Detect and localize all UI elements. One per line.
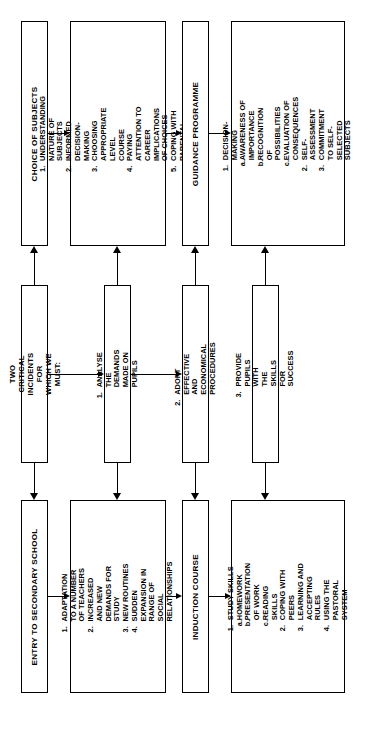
connector-mid-1-to-2 [48,374,98,375]
list-item: 3.COMMITMENT TO SELF-SELECTED SUBJECTS [319,96,354,170]
box-guidance-programme-details: 1.DECISION-MAKINGa.AWARENESS OF IMPORTAN… [231,21,345,246]
list-item-text: RECOGNITION OF POSSIBILITIES [257,96,283,159]
arrow-top-3-to-4-head [225,130,231,136]
list-item: b.RECOGNITION OF POSSIBILITIES [257,96,283,170]
box-guidance-programme-label: GUIDANCE PROGRAMME [191,81,201,185]
flowchart-canvas: CHOICE OF SUBJECTS 1.UNDERSTANDING NATUR… [0,0,377,737]
arrow-col2-down-head [113,493,121,500]
list-item: a.AWARENESS OF IMPORTANCE [240,96,257,170]
arrow-top-1-to-2-head [64,130,70,136]
list-item: b.PRESENTATION OF WORK [244,562,261,630]
box-two-critical-incidents: TWO CRITICAL INCIDENTS FOR WHICH WE MUST… [21,285,48,463]
arrow-col4-up-head [261,246,269,253]
box-adopt-effective-procedures: 2.ADOPT EFFECTIVE AND ECONOMICAL PROCEDU… [182,285,209,463]
list-item-text: ADOPT EFFECTIVE AND ECONOMICAL PROCEDURE… [174,342,218,395]
connector-top-3-to-4 [209,133,225,134]
list-item-marker: 1. [39,160,48,171]
connector-bottom-1-to-2 [48,596,64,597]
list-item-marker: 3. [319,160,328,171]
connector-mid-2-to-3 [131,374,176,375]
list-item-text: SUDDEN EXPANSION IN RANGE OF SOCIAL RELA… [131,561,175,621]
list-item-text: AWARENESS OF IMPORTANCE [240,96,257,159]
connector-col2-up [117,253,118,285]
box-provide-pupils-with-skills: 3.PROVIDE PUPILS WITH THE SKILLS FOR SUC… [252,285,279,463]
list-item-marker: 4. [127,160,136,171]
list-item-text: ADAPTATION TO A NUMBER OF TEACHERS [61,561,87,621]
arrow-col1-up-head [30,246,38,253]
list-item-marker: c. [262,620,271,631]
list-item-text: PRESENTATION OF WORK [244,562,261,619]
box-induction-course: INDUCTION COURSE [182,500,209,693]
list-item-text: EVALUATION OF CONSEQUENCES [284,96,301,159]
box-guidance-programme: GUIDANCE PROGRAMME [182,21,209,246]
list-item-text: USING THE PASTORAL SYSTEM [323,562,349,619]
list-item-text: COPING WITH PEERS [279,562,296,619]
list-item-marker: c. [284,160,293,171]
arrow-mid-1-to-2-head [98,371,104,377]
list-item-marker: b. [257,160,266,171]
connector-col4-down [265,463,266,493]
list-item: 2.SELF-ASSESSMENT [301,96,318,170]
box-entry-to-secondary-school: ENTRY TO SECONDARY SCHOOL [21,500,48,693]
arrow-col4-down-head [261,493,269,500]
list-item: 3.PROVIDE PUPILS WITH THE SKILLS FOR SUC… [235,350,296,397]
list-item: 3.CHOOSING APPROPRIATE LEVEL COURSE [92,96,127,172]
list-item-marker: 3. [235,387,244,398]
list-item-text: INCREASED AND NEW DEMANDS FOR STUDY [87,561,122,621]
list-item-text: INFORMED DECISION-MAKING [66,96,92,161]
arrow-col1-down-head [30,493,38,500]
list-item: 3.LEARNING AND ACCEPTING RULES [297,562,323,630]
box-analyse-the-demands: 1.ANALYSE THE DEMANDS MADE ON PUPILS [104,285,131,463]
list-item: 2.COPING WITH PEERS [279,562,296,630]
connector-bottom-2-to-3 [166,596,176,597]
list-item-marker: 2. [174,395,183,406]
list-item-text: COMMITMENT TO SELF-SELECTED SUBJECTS [319,96,354,159]
connector-bottom-3-to-4 [209,596,225,597]
box-entry-to-secondary-school-label: ENTRY TO SECONDARY SCHOOL [30,528,40,665]
list-item: c.EVALUATION OF CONSEQUENCES [284,96,301,170]
list-item-marker: 1. [222,160,231,171]
arrow-col3-up-head [191,246,199,253]
connector-top-2-to-3 [166,133,176,134]
list-item-marker: 4. [323,620,332,631]
list-item: 4.PAYING ATTENTION TO CAREER IMPLICATION… [127,96,171,172]
list-item-marker: 2. [279,620,288,631]
connector-col4-up [265,253,266,285]
arrow-col2-up-head [113,246,121,253]
box-induction-course-label: INDUCTION COURSE [191,554,201,640]
induction-course-list: 1.STUDY SKILLSa.HOMEWORKb.PRESENTATION O… [227,562,349,630]
list-item-marker: 5. [170,160,179,171]
list-item-marker: 1. [96,387,105,398]
box-induction-course-details: 1.STUDY SKILLSa.HOMEWORKb.PRESENTATION O… [231,500,345,693]
list-item-text: ANALYSE THE DEMANDS MADE ON PUPILS [96,350,140,388]
connector-col1-up [34,253,35,285]
arrow-bottom-2-to-3-head [176,593,182,599]
list-item-text: CHOOSING APPROPRIATE LEVEL COURSE [92,96,127,161]
guidance-programme-list: 1.DECISION-MAKINGa.AWARENESS OF IMPORTAN… [222,96,353,170]
arrow-top-2-to-3-head [176,130,182,136]
arrow-bottom-1-to-2-head [64,593,70,599]
list-item-text: PROVIDE PUPILS WITH THE SKILLS FOR SUCCE… [235,350,296,386]
list-item-marker: b. [244,620,253,631]
arrow-col3-down-head [191,493,199,500]
list-item-marker: 1. [61,621,70,632]
list-item-text: UNDERSTANDING NATURE OF SUBJECTS [39,96,65,161]
list-item-text: LEARNING AND ACCEPTING RULES [297,562,323,619]
list-item-marker: 3. [92,160,101,171]
arrow-mid-2-to-3-head [176,371,182,377]
connector-top-1-to-2 [48,133,64,134]
list-item-marker: a. [240,160,249,171]
list-item-text: READING SKILLS [262,562,279,619]
list-item-marker: 4. [131,621,140,632]
box-choice-of-subjects-details: 1.UNDERSTANDING NATURE OF SUBJECTS2.INFO… [70,21,166,246]
list-item-text: PAYING ATTENTION TO CAREER IMPLICATIONS … [127,96,171,161]
box-provide-pupils-with-skills-label: 3.PROVIDE PUPILS WITH THE SKILLS FOR SUC… [235,350,296,397]
connector-col1-down [34,463,35,493]
entry-to-secondary-school-list: 1.ADAPTATION TO A NUMBER OF TEACHERS2.IN… [61,561,175,632]
list-item: 4.USING THE PASTORAL SYSTEM [323,562,349,630]
box-entry-to-secondary-school-details: 1.ADAPTATION TO A NUMBER OF TEACHERS2.IN… [70,500,166,693]
list-item: c.READING SKILLS [262,562,279,630]
list-item-text: SELF-ASSESSMENT [301,96,318,159]
list-item-text: DECISION-MAKING [222,96,239,159]
list-item-marker: 2. [87,621,96,632]
